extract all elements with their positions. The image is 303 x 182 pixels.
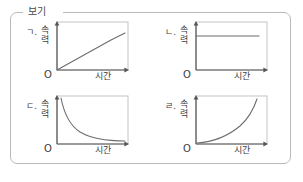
origin-label-4: O: [183, 143, 191, 154]
figure-box: 보기 ㄱ. 속력 O 시간 ㄴ. 속력 O 시: [10, 12, 291, 164]
item-marker-1: ㄱ.: [17, 27, 37, 38]
graph-panel-grid: ㄱ. 속력 O 시간 ㄴ. 속력 O 시간: [11, 13, 292, 165]
plot-area-1: [54, 21, 130, 73]
y-axis-label-4: 속력: [178, 99, 189, 119]
graph-panel-2: ㄴ. 속력 O 시간: [156, 17, 286, 89]
graph-panel-3: ㄷ. 속력 O 시간: [17, 91, 147, 163]
graph-panel-4: ㄹ. 속력 O 시간: [156, 91, 286, 163]
y-axis-label-3: 속력: [39, 99, 50, 119]
plot-area-3: [54, 95, 130, 147]
item-marker-2: ㄴ.: [156, 27, 176, 38]
y-axis-label-1: 속력: [39, 25, 50, 45]
graph-panel-1: ㄱ. 속력 O 시간: [17, 17, 147, 89]
item-marker-4: ㄹ.: [156, 101, 176, 112]
origin-label-1: O: [44, 69, 52, 80]
plot-area-2: [193, 21, 269, 73]
item-marker-3: ㄷ.: [17, 101, 37, 112]
origin-label-2: O: [183, 69, 191, 80]
origin-label-3: O: [44, 143, 52, 154]
plot-area-4: [193, 95, 269, 147]
y-axis-label-2: 속력: [178, 25, 189, 45]
